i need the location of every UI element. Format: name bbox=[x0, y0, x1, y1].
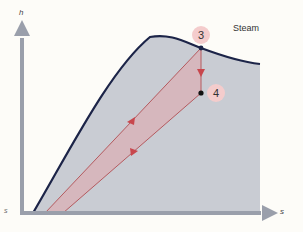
y-axis bbox=[20, 38, 24, 215]
x-axis-arrow-icon bbox=[262, 205, 278, 221]
point-3-label: 3 bbox=[198, 29, 204, 41]
x-axis-label-left: s bbox=[4, 207, 8, 214]
point-4-badge: 4 bbox=[207, 84, 225, 102]
x-axis bbox=[20, 211, 261, 215]
y-axis-arrow-icon bbox=[14, 20, 30, 36]
steam-region-label: Steam bbox=[233, 23, 259, 33]
point-4-dot bbox=[198, 90, 203, 95]
x-axis-label-right: s bbox=[280, 207, 284, 216]
point-4-label: 4 bbox=[213, 87, 219, 99]
y-axis-label: h bbox=[19, 8, 23, 17]
point-3-badge: 3 bbox=[192, 26, 210, 44]
point-3-dot bbox=[199, 46, 204, 51]
hs-diagram bbox=[0, 0, 303, 232]
